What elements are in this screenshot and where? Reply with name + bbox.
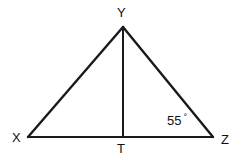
vertex-label-X: X	[12, 131, 21, 144]
vertex-label-Y: Y	[117, 6, 126, 19]
angle-measure-at-Z: 55°	[167, 113, 187, 127]
geometry-figure: Y X Z T 55°	[0, 0, 244, 162]
angle-value: 55	[167, 113, 181, 128]
vertex-label-Z: Z	[221, 133, 229, 146]
side-XY-line	[28, 27, 123, 137]
vertex-label-T: T	[117, 142, 125, 155]
degree-symbol: °	[183, 112, 187, 122]
triangle-diagram-svg	[0, 0, 244, 162]
